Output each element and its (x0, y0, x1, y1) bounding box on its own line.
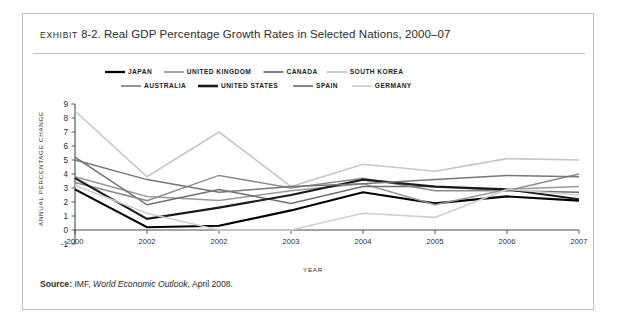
exhibit-number: 8-2. (81, 28, 100, 40)
page-title: EXHIBIT 8-2. Real GDP Percentage Growth … (40, 28, 580, 40)
y-axis: -10123456789 (61, 100, 75, 249)
y-axis-tick-label: 5 (63, 156, 68, 165)
x-axis-tick-label: 2002 (139, 237, 156, 246)
exhibit-frame: EXHIBIT 8-2. Real GDP Percentage Growth … (22, 13, 594, 310)
legend-label-united-kingdom: UNITED KINGDOM (187, 68, 252, 75)
y-axis-title: ANNUAL PERCENTAGE CHANGE (37, 111, 44, 226)
exhibit-title-text: Real GDP Percentage Growth Rates in Sele… (104, 28, 451, 40)
x-axis-tick-label: 2004 (355, 237, 372, 246)
chart-canvas: JAPANUNITED KINGDOMCANADASOUTH KOREAAUST… (23, 58, 595, 276)
series-line-germany (75, 185, 579, 230)
legend-label-australia: AUSTRALIA (144, 82, 186, 89)
y-axis-tick-label: 4 (63, 170, 68, 179)
series-lines (75, 111, 579, 230)
y-axis-tick-label: 6 (63, 142, 68, 151)
legend-label-canada: CANADA (286, 68, 317, 75)
y-axis-tick-label: 3 (63, 184, 68, 193)
legend-label-japan: JAPAN (128, 68, 152, 75)
y-axis-tick-label: 7 (63, 128, 68, 137)
source-prefix: IMF, (74, 279, 90, 289)
x-axis-tick-label: 2007 (571, 237, 588, 246)
legend-label-united-states: UNITED STATES (221, 82, 278, 89)
x-axis-tick-label: 2003 (283, 237, 300, 246)
y-axis-tick-label: 1 (63, 212, 68, 221)
x-axis: 20002002200220032004200520062007 (67, 230, 588, 246)
gdp-growth-line-chart: JAPANUNITED KINGDOMCANADASOUTH KOREAAUST… (23, 58, 595, 276)
legend-label-spain: SPAIN (316, 82, 338, 89)
legend-label-south-korea: SOUTH KOREA (350, 68, 404, 75)
chart-legend: JAPANUNITED KINGDOMCANADASOUTH KOREAAUST… (105, 68, 412, 89)
x-axis-tick-label: 2002 (211, 237, 228, 246)
x-axis-tick-label: 2006 (499, 237, 516, 246)
y-axis-tick-label: 8 (63, 114, 68, 123)
y-axis-tick-label: 0 (63, 226, 68, 235)
y-axis-tick-label: 2 (63, 198, 68, 207)
source-publication: World Economic Outlook (93, 279, 188, 289)
x-axis-tick-label: 2000 (67, 237, 84, 246)
series-line-united-states (75, 178, 579, 219)
source-note: Source: IMF, World Economic Outlook, Apr… (40, 279, 233, 289)
x-axis-title: YEAR (303, 266, 323, 273)
title-divider (33, 53, 585, 54)
y-axis-tick-label: 9 (63, 100, 68, 109)
source-label: Source: (40, 279, 72, 289)
exhibit-label: EXHIBIT (40, 30, 78, 40)
source-suffix: , April 2008. (188, 279, 233, 289)
legend-label-germany: GERMANY (375, 82, 412, 89)
x-axis-tick-label: 2005 (427, 237, 444, 246)
